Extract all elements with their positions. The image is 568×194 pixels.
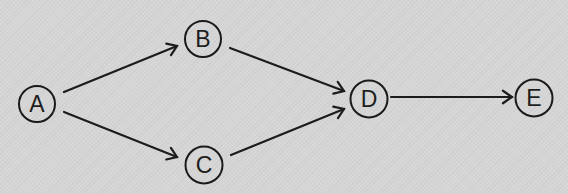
node-a: A [19, 86, 55, 122]
edge-line [231, 109, 344, 155]
diagram-canvas: ABCDE [0, 0, 568, 194]
edge-line [230, 48, 344, 91]
node-e: E [516, 80, 553, 117]
node-label: C [196, 152, 213, 178]
edge-c-to-d [231, 107, 344, 155]
edge-line [64, 46, 177, 92]
edge-line [64, 112, 177, 157]
node-b: B [185, 21, 221, 57]
node-label: A [29, 91, 45, 117]
node-label: D [361, 86, 378, 112]
node-d: D [351, 81, 388, 118]
node-label: B [195, 26, 210, 52]
edge-a-to-c [64, 112, 177, 159]
edges-group [64, 44, 512, 160]
nodes-group: ABCDE [19, 21, 553, 184]
edge-d-to-e [391, 91, 512, 103]
edge-a-to-b [64, 44, 177, 92]
node-label: E [526, 85, 541, 111]
directed-graph: ABCDE [0, 0, 568, 194]
edge-b-to-d [230, 48, 344, 94]
node-c: C [186, 147, 223, 184]
